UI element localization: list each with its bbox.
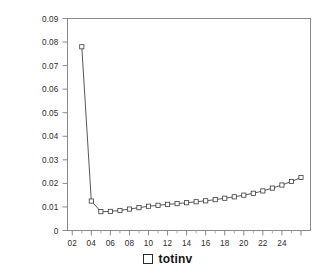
data-point-marker: [108, 209, 112, 213]
x-tick-label: 08: [125, 239, 135, 248]
y-axis-ticks: [63, 19, 68, 231]
data-point-marker: [261, 189, 265, 193]
y-tick-label: 0.03: [42, 156, 59, 165]
y-tick-label: 0.07: [42, 62, 59, 71]
data-series-totinv: [80, 45, 303, 214]
data-point-marker: [89, 199, 93, 203]
x-tick-label: 18: [220, 239, 230, 248]
legend-label-totinv: totinv: [159, 252, 193, 266]
data-point-marker: [242, 193, 246, 197]
data-point-marker: [223, 196, 227, 200]
data-point-marker: [194, 200, 198, 204]
y-tick-label: 0.08: [42, 38, 59, 47]
y-tick-label: 0.05: [42, 109, 59, 118]
x-axis-tick-labels: 020406081012141618202224: [68, 239, 287, 248]
chart-container: 0.090.080.070.060.050.040.030.020.010 02…: [0, 0, 335, 276]
data-point-marker: [137, 206, 141, 210]
x-tick-label: 24: [277, 239, 287, 248]
y-tick-label: 0.06: [42, 85, 59, 94]
data-point-marker: [204, 199, 208, 203]
y-tick-label: 0: [54, 227, 59, 236]
data-point-marker: [289, 179, 293, 183]
x-tick-label: 06: [106, 239, 116, 248]
data-point-marker: [185, 201, 189, 205]
data-point-marker: [213, 198, 217, 202]
data-point-marker: [270, 186, 274, 190]
y-axis-tick-labels: 0.090.080.070.060.050.040.030.020.010: [42, 15, 59, 236]
x-tick-label: 22: [258, 239, 268, 248]
y-tick-label: 0.04: [42, 132, 59, 141]
x-tick-label: 12: [163, 239, 173, 248]
x-axis-ticks: [72, 231, 301, 236]
data-point-marker: [80, 45, 84, 49]
data-point-marker: [251, 191, 255, 195]
data-point-marker: [299, 175, 303, 179]
x-tick-label: 02: [68, 239, 78, 248]
data-point-marker: [280, 183, 284, 187]
x-tick-label: 20: [239, 239, 249, 248]
data-point-marker: [175, 202, 179, 206]
series-line-totinv: [82, 47, 301, 212]
y-tick-label: 0.02: [42, 179, 59, 188]
open-square-marker-icon: [143, 254, 153, 264]
data-point-marker: [127, 207, 131, 211]
data-point-marker: [118, 208, 122, 212]
line-chart-plot: 0.090.080.070.060.050.040.030.020.010 02…: [0, 0, 335, 276]
data-point-marker: [232, 195, 236, 199]
x-tick-label: 14: [182, 239, 192, 248]
data-point-marker: [99, 210, 103, 214]
data-point-marker: [156, 203, 160, 207]
y-tick-label: 0.01: [42, 203, 59, 212]
data-point-marker: [146, 204, 150, 208]
x-tick-label: 16: [201, 239, 211, 248]
chart-legend: totinv: [0, 252, 335, 266]
data-point-marker: [165, 202, 169, 206]
y-tick-label: 0.09: [42, 15, 59, 24]
x-tick-label: 10: [144, 239, 154, 248]
x-tick-label: 04: [87, 239, 97, 248]
plot-frame: [68, 19, 311, 231]
